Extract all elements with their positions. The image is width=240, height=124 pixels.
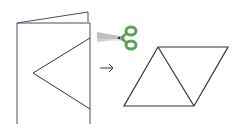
- folded-paper: [17, 12, 90, 124]
- scissors-icon: [97, 27, 136, 49]
- unfolded-rhombus: [124, 47, 228, 106]
- rhombus-diagonal: [158, 47, 194, 106]
- arrow-right-icon: [100, 64, 113, 72]
- cut-triangle: [33, 38, 90, 109]
- paper-back-edge: [17, 12, 88, 23]
- diagram-canvas: [0, 0, 240, 124]
